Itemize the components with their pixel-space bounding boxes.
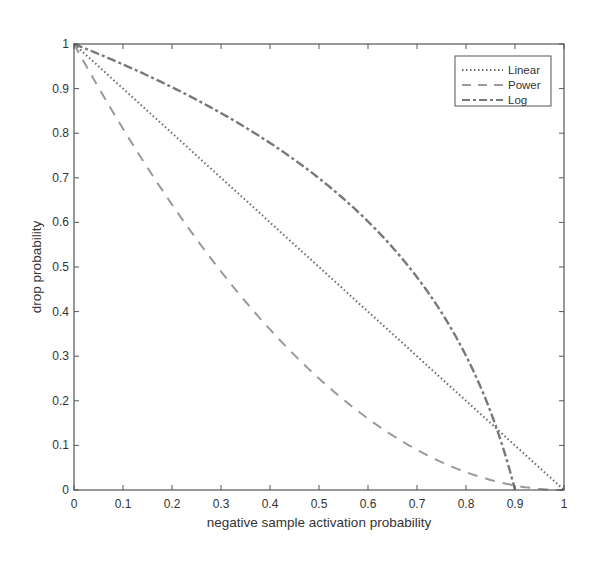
x-tick-label: 0.3 [213,497,230,511]
x-tick-label: 0 [71,497,78,511]
x-tick-labels: 00.10.20.30.40.50.60.70.80.91 [71,497,568,511]
x-tick-label: 0.2 [164,497,181,511]
y-tick-label: 0.7 [52,171,69,185]
y-axis-label: drop probability [29,221,44,314]
line-chart: 00.10.20.30.40.50.60.70.80.91 00.10.20.3… [0,0,597,566]
legend-power-label: Power [508,79,541,91]
y-tick-labels: 00.10.20.30.40.50.60.70.80.91 [52,37,69,497]
x-tick-label: 0.9 [507,497,524,511]
legend-log-label: Log [508,94,527,106]
y-tick-label: 0.1 [52,438,69,452]
y-tick-label: 0.8 [52,126,69,140]
x-tick-label: 0.1 [115,497,132,511]
plot-lines [74,44,564,490]
x-tick-label: 1 [561,497,568,511]
y-tick-label: 0.4 [52,305,69,319]
legend-linear-label: Linear [508,64,540,76]
x-tick-label: 0.8 [458,497,475,511]
y-tick-label: 0 [62,483,69,497]
x-tick-label: 0.4 [262,497,279,511]
y-tick-label: 0.6 [52,215,69,229]
y-tick-label: 1 [62,37,69,51]
series-linear-line [74,44,564,490]
y-tick-label: 0.2 [52,394,69,408]
x-tick-label: 0.7 [409,497,426,511]
x-tick-label: 0.5 [311,497,328,511]
series-log-line [74,44,515,490]
x-tick-label: 0.6 [360,497,377,511]
y-tick-label: 0.9 [52,82,69,96]
x-axis-label: negative sample activation probability [207,515,432,530]
y-tick-label: 0.3 [52,349,69,363]
y-tick-label: 0.5 [52,260,69,274]
legend: Linear Power Log [455,56,551,106]
